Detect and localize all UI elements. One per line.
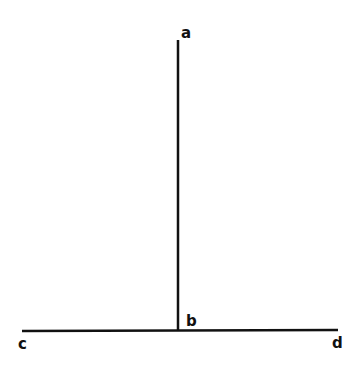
horizontal-line-cd — [22, 330, 338, 331]
label-a: a — [181, 24, 191, 42]
label-b: b — [186, 312, 197, 330]
perpendicular-lines-diagram: a b c d — [0, 0, 357, 369]
label-d: d — [332, 334, 343, 352]
label-c: c — [18, 335, 27, 353]
